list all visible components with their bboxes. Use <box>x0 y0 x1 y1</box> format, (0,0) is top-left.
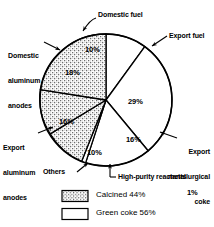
pie-slice-domestic-aluminum-anodes <box>40 34 106 100</box>
legend-swatch-green-coke <box>62 209 88 220</box>
label-domestic-aluminum-anodes: Domestic aluminum anodes <box>8 36 40 126</box>
label-others: Others <box>43 168 65 176</box>
label-export-aluminum-anodes-line2: aluminum <box>3 169 35 177</box>
legend-label-calcined: Calcined 44% <box>96 190 145 199</box>
leader-others <box>77 163 88 172</box>
pie-chart-figure: 10% 29% 16% 10% 16% 18% 1% Domestic fuel… <box>0 0 214 227</box>
label-domestic-aluminum-anodes-line3: anodes <box>8 102 40 110</box>
label-high-purity-reactants: High-purity reactants <box>118 173 186 181</box>
slice-percent-others: 10% <box>87 148 102 157</box>
legend-label-green-coke: Green coke 56% <box>96 208 156 217</box>
leader-domestic-fuel <box>83 18 96 31</box>
label-export-fuel: Export fuel <box>169 32 204 40</box>
label-domestic-aluminum-anodes-line1: Domestic <box>8 52 40 60</box>
label-domestic-fuel: Domestic fuel <box>98 11 143 19</box>
label-domestic-aluminum-anodes-line2: aluminum <box>8 77 40 85</box>
label-export-aluminum-anodes: Export aluminum anodes <box>3 128 35 218</box>
slice-percent-export-fuel: 29% <box>128 97 143 106</box>
leader-export-fuel <box>152 36 167 46</box>
slice-percent-domestic-fuel: 10% <box>85 45 100 54</box>
label-export-aluminum-anodes-line3: anodes <box>3 194 35 202</box>
legend-swatch-calcined <box>62 191 88 202</box>
label-export-aluminum-anodes-line1: Export <box>3 144 35 152</box>
leader-domestic-aluminum-anodes <box>44 42 60 50</box>
slice-percent-domestic-aluminum-anodes: 18% <box>65 68 80 77</box>
label-export-metallurgical-coke-line1: Export <box>124 148 210 156</box>
slice-percent-export-aluminum-anodes: 16% <box>59 117 74 126</box>
